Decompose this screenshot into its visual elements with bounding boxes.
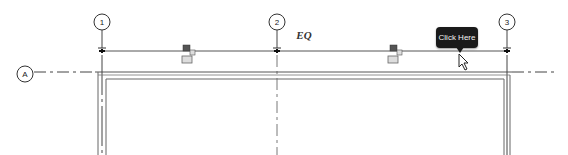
lock-icon [390,45,397,51]
lock-icon [183,45,190,51]
wall-outline[interactable] [98,72,510,155]
mouse-cursor-icon [459,54,468,70]
grid-line-2[interactable]: 2 [269,14,285,155]
grid-bubble-a[interactable]: A [17,66,33,82]
dimension-tick-3 [503,48,511,53]
grid-bubble-3-label: 3 [505,18,510,27]
grid-bubble-2-label: 2 [275,18,280,27]
dimension-controls-right[interactable] [388,45,402,63]
grid-line-3[interactable]: 3 [499,14,515,155]
grid-bubble-1-label: 1 [100,18,105,27]
toggle-icon [190,50,195,55]
grid-bubble-a-label: A [22,70,28,79]
toggle-icon [397,50,402,55]
drawing-canvas[interactable]: A 1 2 3 [0,0,568,155]
dimension-tick-2 [273,48,281,53]
dimension-controls-left[interactable] [182,45,195,63]
dimension-tick-1 [98,48,106,53]
click-here-tooltip: Click Here [436,27,478,48]
eq-dimension-label[interactable]: EQ [295,29,311,41]
drag-handle-icon [182,56,192,63]
grid-line-1[interactable]: 1 [94,14,110,155]
drag-handle-icon [388,56,398,63]
dimension-string[interactable] [98,48,511,53]
